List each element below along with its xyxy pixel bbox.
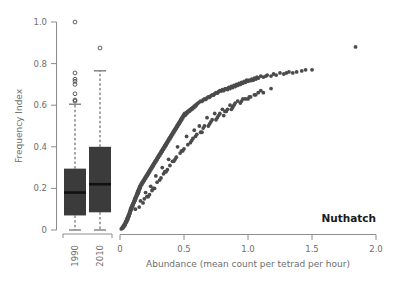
scatter-point bbox=[265, 73, 269, 77]
x-tick-label: 0 bbox=[117, 244, 122, 254]
y-tick-label: 1.0 bbox=[33, 17, 47, 27]
scatter-point bbox=[254, 93, 258, 97]
scatter-point bbox=[159, 176, 163, 180]
scatter-point bbox=[300, 69, 304, 73]
scatter-point bbox=[176, 145, 180, 149]
scatter-point bbox=[222, 114, 226, 118]
scatter-point bbox=[141, 201, 145, 205]
figure-background bbox=[0, 0, 403, 293]
scatter-point bbox=[165, 168, 169, 172]
species-annotation-label: Nuthatch bbox=[321, 212, 376, 224]
scatter-point bbox=[287, 70, 291, 74]
scatter-point bbox=[295, 70, 299, 74]
scatter-point bbox=[269, 87, 273, 91]
scatter-point bbox=[291, 71, 295, 75]
scatter-point bbox=[144, 191, 148, 195]
scatter-point bbox=[274, 73, 278, 77]
y-tick-label: 0.8 bbox=[33, 59, 47, 69]
x-tick-label: 1.5 bbox=[305, 244, 319, 254]
scatter-point bbox=[310, 68, 314, 72]
scatter-point bbox=[173, 157, 177, 161]
scatter-point bbox=[133, 207, 137, 211]
y-tick-label: 0.2 bbox=[33, 183, 47, 193]
scatter-point bbox=[217, 114, 221, 118]
scatter-point bbox=[145, 195, 149, 199]
scatter-point bbox=[240, 99, 244, 103]
scatter-point bbox=[247, 95, 251, 99]
y-tick-label: 0 bbox=[42, 225, 47, 235]
scatter-point bbox=[186, 143, 190, 147]
scatter-point bbox=[205, 116, 209, 120]
scatter-point bbox=[354, 45, 358, 49]
scatter-point bbox=[181, 149, 185, 153]
scatter-point bbox=[224, 110, 228, 114]
scatter-point bbox=[137, 205, 141, 209]
scatter-point bbox=[192, 128, 196, 132]
scatter-point bbox=[155, 180, 159, 184]
scatter-point bbox=[201, 126, 205, 130]
scatter-point bbox=[229, 107, 233, 111]
scatter-point bbox=[168, 164, 172, 168]
scatter-point bbox=[214, 118, 218, 122]
scatter-point bbox=[185, 135, 189, 139]
box-iqr bbox=[89, 147, 111, 213]
scatter-point bbox=[304, 68, 308, 72]
y-axis-title: Frequency Index bbox=[14, 88, 24, 163]
scatter-point bbox=[154, 174, 158, 178]
boxplot-label-2010: 2010 bbox=[95, 245, 105, 267]
y-tick-label: 0.4 bbox=[33, 142, 47, 152]
scatter-point bbox=[209, 120, 213, 124]
scatter-point bbox=[278, 71, 282, 75]
scatter-point bbox=[206, 124, 210, 128]
nuthatch-figure: 00.20.40.60.81.0 Frequency Index 1990201… bbox=[0, 0, 403, 293]
boxplot-label-1990: 1990 bbox=[70, 245, 80, 267]
y-tick-label: 0.6 bbox=[33, 100, 47, 110]
scatter-point bbox=[199, 130, 203, 134]
scatter-point bbox=[197, 124, 201, 128]
scatter-point bbox=[259, 89, 263, 93]
scatter-point bbox=[167, 157, 171, 161]
x-axis-title: Abundance (mean count per tetrad per hou… bbox=[146, 259, 350, 269]
scatter-point bbox=[213, 112, 217, 116]
x-tick-label: 1.0 bbox=[241, 244, 255, 254]
scatter-point bbox=[232, 103, 236, 107]
scatter-point bbox=[191, 137, 195, 141]
scatter-point bbox=[150, 189, 154, 193]
x-tick-label: 2.0 bbox=[369, 244, 383, 254]
scatter-point bbox=[160, 166, 164, 170]
x-tick-label: 0.5 bbox=[177, 244, 191, 254]
